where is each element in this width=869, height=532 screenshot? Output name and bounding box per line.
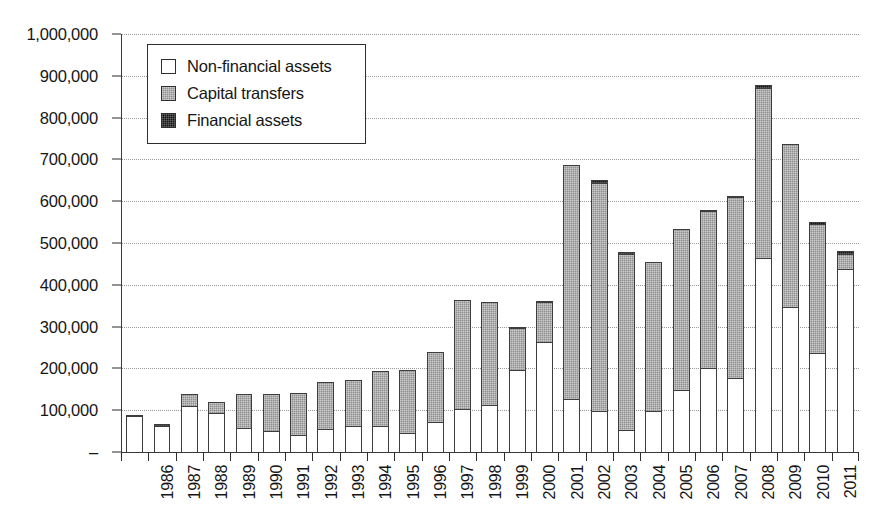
bar-segment-capital-transfers [290, 393, 307, 436]
stacked-bar-chart: 1,000,000900,000800,000700,000600,000500… [0, 0, 869, 532]
y-tick-label: – [89, 443, 98, 462]
bar-segment-capital-transfers [591, 183, 608, 412]
bar-segment-non-financial-assets [700, 368, 717, 454]
x-tick-mark [121, 452, 122, 461]
y-tick-label: 300,000 [40, 317, 98, 336]
y-axis: 1,000,000900,000800,000700,000600,000500… [0, 0, 112, 532]
x-label-slot: 1991 [258, 463, 285, 529]
bar[interactable] [208, 400, 225, 452]
bar[interactable] [454, 297, 471, 452]
bar-segment-non-financial-assets [809, 353, 826, 453]
bar-segment-non-financial-assets [782, 307, 799, 453]
y-tick-mark [112, 326, 121, 327]
x-axis-labels: 1986198719881989199019911992199319941995… [121, 463, 859, 529]
x-label-slot: 1999 [476, 463, 503, 529]
bar-slot [804, 34, 831, 452]
bar[interactable] [700, 206, 717, 452]
bar-slot [449, 34, 476, 452]
bar-slot [640, 34, 667, 452]
x-label-slot: 1989 [203, 463, 230, 529]
bar[interactable] [755, 82, 772, 452]
bar-slot [750, 34, 777, 452]
x-label-slot: 1992 [285, 463, 312, 529]
x-label-slot: 2008 [722, 463, 749, 529]
x-label-slot: 2006 [668, 463, 695, 529]
bar[interactable] [427, 350, 444, 452]
bar-segment-non-financial-assets [591, 411, 608, 454]
bar[interactable] [673, 226, 690, 452]
bar-slot [476, 34, 503, 452]
legend-label-capital-transfers: Capital transfers [187, 84, 304, 103]
bar[interactable] [399, 367, 416, 452]
y-tick-mark [112, 410, 121, 411]
bar-segment-capital-transfers [263, 394, 280, 433]
bar[interactable] [345, 378, 362, 452]
y-tick-label: 1,000,000 [26, 25, 98, 44]
bar[interactable] [727, 193, 744, 452]
bar-slot [121, 34, 148, 452]
y-tick-mark [112, 117, 121, 118]
bar-segment-non-financial-assets [755, 258, 772, 454]
bar[interactable] [591, 176, 608, 452]
y-tick-label: 700,000 [40, 150, 98, 169]
legend-swatch-financial-assets [161, 113, 176, 128]
bar[interactable] [317, 380, 334, 452]
bar-segment-capital-transfers [618, 254, 635, 432]
bar[interactable] [290, 391, 307, 452]
bar-segment-non-financial-assets [673, 390, 690, 454]
bar-slot [504, 34, 531, 452]
bar-segment-capital-transfers [399, 370, 416, 435]
x-label-slot: 2010 [777, 463, 804, 529]
x-label-slot: 2007 [695, 463, 722, 529]
bar[interactable] [263, 391, 280, 452]
bar-segment-capital-transfers [481, 302, 498, 407]
bar[interactable] [372, 368, 389, 452]
y-axis-line [121, 34, 122, 453]
y-tick-mark [112, 34, 121, 35]
bar-slot [777, 34, 804, 452]
x-label-slot: 2001 [531, 463, 558, 529]
bar-segment-non-financial-assets [181, 406, 198, 453]
bar[interactable] [126, 412, 143, 452]
y-tick-mark [112, 452, 121, 453]
bar-segment-non-financial-assets [481, 405, 498, 453]
bar-segment-non-financial-assets [454, 409, 471, 453]
y-tick-label: 400,000 [40, 275, 98, 294]
bar-segment-capital-transfers [317, 382, 334, 430]
bar[interactable] [181, 391, 198, 452]
y-tick-label: 100,000 [40, 401, 98, 420]
x-label-slot: 2004 [613, 463, 640, 529]
bar-slot [558, 34, 585, 452]
bar-segment-capital-transfers [782, 144, 799, 308]
bar-slot [832, 34, 859, 452]
x-label-slot: 1990 [230, 463, 257, 529]
x-label-slot: 2005 [640, 463, 667, 529]
bar[interactable] [645, 260, 662, 452]
bar-segment-capital-transfers [700, 211, 717, 369]
y-tick-label: 200,000 [40, 359, 98, 378]
bar[interactable] [837, 247, 854, 452]
bar[interactable] [536, 297, 553, 452]
x-label-slot: 2003 [586, 463, 613, 529]
bar[interactable] [618, 248, 635, 452]
bar-segment-capital-transfers [645, 262, 662, 412]
bar[interactable] [563, 163, 580, 452]
bar[interactable] [236, 391, 253, 452]
x-label-slot: 1993 [312, 463, 339, 529]
bar-segment-capital-transfers [536, 302, 553, 344]
bar-segment-capital-transfers [454, 300, 471, 411]
bar-slot [695, 34, 722, 452]
bar-segment-capital-transfers [563, 165, 580, 400]
bar-segment-non-financial-assets [563, 399, 580, 453]
bar[interactable] [809, 218, 826, 452]
y-tick-mark [112, 75, 121, 76]
y-tick-label: 900,000 [40, 66, 98, 85]
legend-swatch-capital-transfers [161, 86, 176, 101]
y-tick-label: 800,000 [40, 108, 98, 127]
x-tick-label: 2012 [845, 448, 863, 482]
bar[interactable] [509, 323, 526, 452]
bar[interactable] [481, 299, 498, 452]
bar[interactable] [782, 142, 799, 452]
bar-slot [613, 34, 640, 452]
bar-segment-capital-transfers [809, 224, 826, 354]
